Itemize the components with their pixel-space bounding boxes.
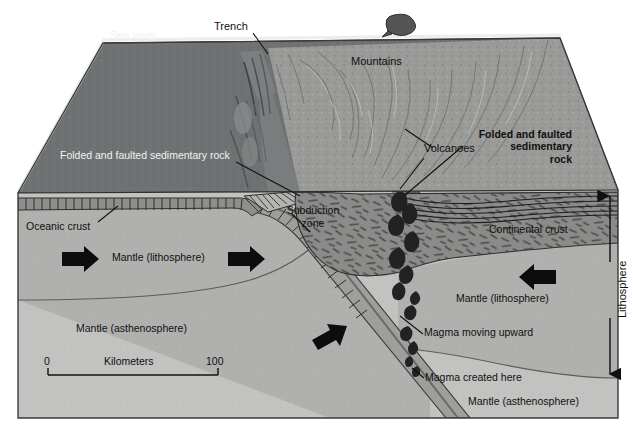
block-diagram-figure: Sea level Trench Mountains Folded and fa… <box>0 0 633 435</box>
label-mantle-asthenosphere-bottom: Mantle (asthenosphere) <box>468 396 579 408</box>
label-continental-crust: Continental crust <box>489 224 568 236</box>
folded-right-line-1: Folded and faulted <box>438 128 572 140</box>
scale-bar-left-value: 0 <box>44 356 50 368</box>
scale-bar-right-value: 100 <box>206 356 224 368</box>
scale-bar-unit-label: Kilometers <box>104 356 154 368</box>
label-mantle-asthenosphere-left: Mantle (asthenosphere) <box>76 323 187 335</box>
label-sea-level: Sea level <box>110 29 155 41</box>
label-oceanic-crust: Oceanic crust <box>26 221 90 233</box>
subduction-line-2: zone <box>282 217 344 230</box>
label-trench: Trench <box>214 20 248 32</box>
folded-right-line-3: rock <box>438 153 572 165</box>
label-mountains: Mountains <box>351 55 402 67</box>
label-lithosphere: Lithosphere <box>616 261 628 319</box>
folded-right-line-2: sedimentary <box>438 140 572 152</box>
label-magma-created-here: Magma created here <box>425 372 522 384</box>
subduction-line-1: Subduction <box>282 204 344 217</box>
label-mantle-lithosphere-left: Mantle (lithosphere) <box>112 252 205 264</box>
summit-outcrop <box>382 14 416 37</box>
label-subduction-zone: Subduction zone <box>282 204 344 229</box>
label-folded-faulted-left: Folded and faulted sedimentary rock <box>60 150 230 162</box>
label-magma-moving-upward: Magma moving upward <box>424 327 533 339</box>
label-folded-faulted-right: Folded and faulted sedimentary rock <box>438 128 572 165</box>
land-terrain <box>268 38 618 193</box>
label-mantle-lithosphere-right: Mantle (lithosphere) <box>456 293 549 305</box>
